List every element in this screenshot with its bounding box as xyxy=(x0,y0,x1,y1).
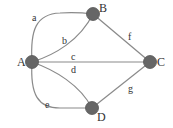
edge-label-c: c xyxy=(71,51,76,62)
node-label-b: B xyxy=(99,1,107,15)
node-b xyxy=(87,8,100,21)
node-label-a: A xyxy=(17,55,26,69)
edge-e xyxy=(32,62,92,108)
graph-diagram: A B C D a b c d e f g xyxy=(0,0,173,128)
graph-svg: A B C D a b c d e f g xyxy=(0,0,173,128)
edge-label-f: f xyxy=(128,31,132,42)
edge-a-d-inner xyxy=(32,62,92,108)
node-label-d: D xyxy=(97,110,106,124)
edge-label-b: b xyxy=(62,35,67,46)
edge-label-g: g xyxy=(128,83,133,94)
node-c xyxy=(144,56,157,69)
node-a xyxy=(26,56,39,69)
edge-label-d: d xyxy=(71,64,76,75)
node-label-c: C xyxy=(157,55,165,69)
edge-g xyxy=(92,62,150,108)
edge-label-a: a xyxy=(32,12,37,23)
edge-label-e: e xyxy=(45,99,50,110)
edge-f xyxy=(93,14,150,62)
